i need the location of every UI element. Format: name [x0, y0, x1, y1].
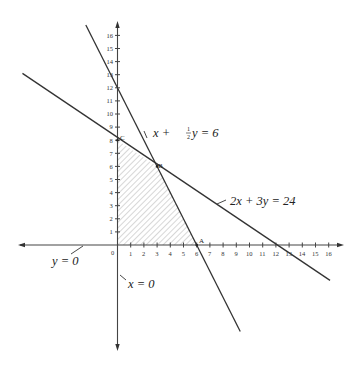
y-tick-label: 8: [110, 137, 113, 144]
y-axis-down-arrow-icon: [115, 344, 119, 351]
vertex-label-b: B: [158, 162, 163, 170]
y-tick-label: 15: [107, 45, 114, 52]
vertex-label-a: A: [199, 237, 204, 245]
y-tick-label: 3: [110, 202, 113, 209]
x-tick-label: 6: [195, 250, 199, 257]
leader-line1: [144, 131, 147, 138]
axes: [18, 21, 344, 351]
x-tick-label: 7: [208, 250, 212, 257]
constraint-lines: [22, 25, 330, 332]
leader-xzero: [120, 275, 126, 280]
x-tick-label: 3: [155, 250, 158, 257]
linear-programming-graph: 1234567891011121314151612345678910111213…: [0, 0, 360, 366]
y-tick-label: 11: [107, 97, 113, 104]
vertex-label-c: C: [120, 134, 125, 142]
x-axis-left-arrow-icon: [18, 243, 25, 247]
label-line1-prefix: x +: [152, 126, 170, 140]
origin-label: 0: [111, 249, 114, 256]
label-y-zero: y = 0: [50, 254, 79, 268]
x-tick-label: 10: [246, 250, 253, 257]
label-line-x-half-y: x +: [152, 126, 170, 140]
label-line-2x-3y: 2x + 3y = 24: [230, 194, 295, 208]
leader-yzero: [71, 246, 83, 254]
y-tick-label: 6: [110, 163, 114, 170]
x-tick-label: 9: [235, 250, 238, 257]
y-tick-label: 16: [107, 32, 114, 39]
feasible-region: [118, 140, 197, 245]
x-tick-label: 4: [169, 250, 173, 257]
feasible-region-hatch: [118, 140, 197, 245]
x-axis-right-arrow-icon: [337, 243, 344, 247]
x-tick-label: 16: [325, 250, 332, 257]
x-tick-label: 1: [129, 250, 132, 257]
y-tick-label: 1: [110, 228, 113, 235]
y-tick-label: 10: [107, 110, 114, 117]
x-tick-label: 15: [312, 250, 319, 257]
y-tick-label: 7: [110, 150, 114, 157]
vertex-point-a: [195, 244, 198, 247]
constraint-line-2x-plus-3y-24: [22, 73, 330, 280]
y-tick-label: 5: [110, 176, 113, 183]
label-x-zero: x = 0: [127, 277, 155, 291]
label-line1-fraction-den: 2: [187, 134, 190, 140]
y-tick-label: 14: [107, 58, 114, 65]
label-line1-suffix: y = 6: [190, 126, 219, 140]
vertex-point-c: [116, 139, 119, 142]
x-tick-label: 14: [299, 250, 306, 257]
y-tick-label: 4: [110, 189, 114, 196]
x-tick-label: 5: [182, 250, 185, 257]
x-tick-label: 2: [142, 250, 145, 257]
label-line1-fraction-num: 1: [187, 126, 190, 132]
y-tick-label: 12: [107, 84, 114, 91]
y-tick-label: 9: [110, 123, 113, 130]
x-tick-label: 12: [272, 250, 279, 257]
leader-line2: [217, 200, 226, 204]
y-axis-up-arrow-icon: [115, 21, 119, 28]
x-tick-label: 8: [221, 250, 224, 257]
y-tick-label: 2: [110, 215, 113, 222]
x-tick-label: 11: [259, 250, 265, 257]
